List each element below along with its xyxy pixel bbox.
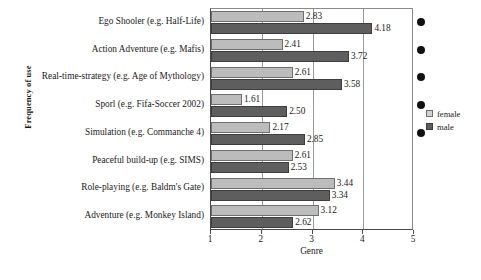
bar-value-label: 2.85	[305, 134, 323, 145]
x-tick-label: 2	[251, 234, 271, 244]
bar-group: 2.613.58	[211, 65, 412, 93]
bar-chart: Frequency of use Ego Shooler (e.g. Half-…	[0, 0, 481, 280]
bar-value-label: 3.72	[349, 51, 367, 62]
x-axis-label: Genre	[210, 246, 413, 256]
bar-value-label: 3.44	[335, 178, 353, 189]
category-label: Sporl (e.g. Fifa-Soccer 2002)	[8, 99, 204, 110]
category-label-list: Ego Shooler (e.g. Half-Life)Action Adven…	[8, 8, 208, 230]
bar-female	[211, 205, 319, 216]
category-label: Peaceful build-up (e.g. SIMS)	[8, 155, 204, 166]
bar-male	[211, 217, 293, 228]
bar-male	[211, 162, 289, 173]
bar-group: 2.172.85	[211, 120, 412, 148]
significance-dot-icon	[417, 129, 425, 137]
x-axis-ticks: 12345	[210, 230, 413, 246]
bar-value-label: 2.53	[289, 162, 307, 173]
bar-group: 1.612.50	[211, 92, 412, 120]
bar-value-label: 4.18	[372, 23, 390, 34]
bar-group: 2.612.53	[211, 148, 412, 176]
bar-value-label: 2.50	[287, 106, 305, 117]
x-tick-label: 1	[200, 234, 220, 244]
significance-dot-icon	[417, 101, 425, 109]
bar-group: 2.834.18	[211, 9, 412, 37]
significance-dot-icon	[417, 18, 425, 26]
bar-female	[211, 39, 283, 50]
category-label: Ego Shooler (e.g. Half-Life)	[8, 16, 204, 27]
significance-dot-icon	[417, 46, 425, 54]
category-label: Simulation (e.g. Commanche 4)	[8, 127, 204, 138]
bar-male	[211, 79, 342, 90]
legend-label-male: male	[437, 122, 454, 132]
legend-label-female: female	[437, 109, 460, 119]
legend: female male	[426, 108, 460, 134]
significance-dot-icon	[417, 73, 425, 81]
bar-value-label: 2.62	[293, 217, 311, 228]
category-label: Adventure (e.g. Monkey Island)	[8, 210, 204, 221]
x-tick-label: 3	[302, 234, 322, 244]
bar-female	[211, 11, 304, 22]
bar-value-label: 2.17	[270, 122, 288, 133]
category-label: Real-time-strategy (e.g. Age of Mytholog…	[8, 71, 204, 82]
bar-female	[211, 178, 335, 189]
plot-area: 2.834.182.413.722.613.581.612.502.172.85…	[210, 8, 413, 230]
legend-swatch-female-icon	[426, 110, 433, 117]
legend-item-female: female	[426, 108, 460, 119]
bar-value-label: 2.83	[304, 11, 322, 22]
x-tick-label: 4	[352, 234, 372, 244]
x-tick-label: 5	[403, 234, 423, 244]
bar-value-label: 3.58	[342, 79, 360, 90]
bar-female	[211, 94, 242, 105]
bar-female	[211, 150, 293, 161]
bar-female	[211, 67, 293, 78]
bar-male	[211, 106, 287, 117]
bar-value-label: 3.34	[330, 190, 348, 201]
bar-group: 2.413.72	[211, 37, 412, 65]
bar-value-label: 2.61	[293, 67, 311, 78]
bar-group: 3.443.34	[211, 176, 412, 204]
bar-female	[211, 122, 270, 133]
bar-value-label: 2.41	[283, 39, 301, 50]
bar-value-label: 1.61	[242, 94, 260, 105]
bar-male	[211, 190, 330, 201]
bar-value-label: 3.12	[319, 205, 337, 216]
bar-male	[211, 51, 349, 62]
bar-male	[211, 134, 305, 145]
legend-item-male: male	[426, 121, 460, 132]
category-label: Role-playing (e.g. Baldm's Gate)	[8, 182, 204, 193]
bar-male	[211, 23, 372, 34]
legend-swatch-male-icon	[426, 123, 433, 130]
category-label: Action Adventure (e.g. Mafis)	[8, 44, 204, 55]
bar-value-label: 2.61	[293, 150, 311, 161]
bar-group: 3.122.62	[211, 203, 412, 231]
